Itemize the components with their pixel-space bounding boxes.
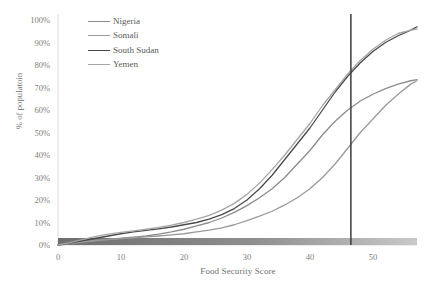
legend-swatch-icon: [88, 21, 110, 22]
legend-item-south-sudan[interactable]: South Sudan: [88, 43, 198, 58]
x-tick-label: 30: [243, 252, 252, 262]
chart-legend: NigeriaSomaliSouth SudanYemen: [88, 14, 198, 72]
legend-item-nigeria[interactable]: Nigeria: [88, 14, 198, 29]
x-tick-label: 20: [180, 252, 189, 262]
x-tick-label: 50: [369, 252, 378, 262]
legend-item-label: Yemen: [113, 60, 138, 69]
x-tick-label: 40: [306, 252, 315, 262]
chart-container: % of populatoin 0%10%20%30%40%50%60%70%8…: [0, 0, 425, 296]
x-tick-label: 10: [117, 252, 126, 262]
legend-item-somali[interactable]: Somali: [88, 29, 198, 44]
x-tick-label: 0: [56, 252, 60, 262]
series-line-somali: [58, 81, 417, 245]
legend-item-label: South Sudan: [113, 46, 159, 55]
x-axis-title: Food Security Score: [58, 266, 418, 276]
legend-item-label: Nigeria: [113, 17, 140, 26]
legend-item-label: Somali: [113, 31, 139, 40]
series-line-nigeria: [58, 80, 417, 245]
legend-swatch-icon: [88, 35, 110, 36]
legend-item-yemen[interactable]: Yemen: [88, 58, 198, 73]
legend-swatch-icon: [88, 64, 110, 65]
legend-swatch-icon: [88, 50, 110, 51]
